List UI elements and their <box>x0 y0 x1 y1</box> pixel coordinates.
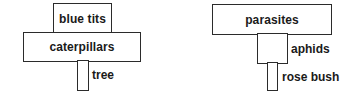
level-caterpillars: caterpillars <box>23 32 141 62</box>
level-label-aphids: aphids <box>291 42 330 56</box>
level-label-rose-bush: rose bush <box>282 70 339 84</box>
level-label: caterpillars <box>49 40 114 54</box>
level-label: parasites <box>245 13 299 27</box>
level-aphids <box>257 33 288 64</box>
level-tree <box>77 60 89 91</box>
level-label-tree: tree <box>92 68 114 82</box>
level-blue-tits: blue tits <box>53 3 112 34</box>
level-rose-bush <box>267 62 278 91</box>
level-parasites: parasites <box>212 4 332 35</box>
food-chain-pyramids-diagram: blue tits caterpillars tree parasites ap… <box>0 0 340 92</box>
level-label: blue tits <box>59 12 106 26</box>
